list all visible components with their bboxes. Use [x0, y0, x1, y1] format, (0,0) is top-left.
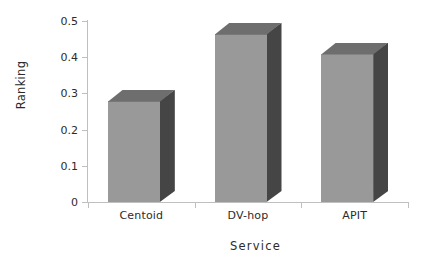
bar-chart: Ranking 0.50.40.30.20.10 CentoidDV-hopAP…	[0, 0, 427, 265]
x-tick-mark	[195, 202, 196, 208]
y-tick-label: 0.2	[18, 123, 78, 136]
y-tick-label: 0	[18, 196, 78, 209]
x-axis-title: Service	[0, 239, 427, 253]
x-tick-mark	[408, 202, 409, 208]
y-tick-mark	[82, 57, 88, 58]
y-tick-label: 0.4	[18, 51, 78, 64]
y-tick-mark	[82, 130, 88, 131]
y-tick-mark	[82, 21, 88, 22]
bar-front-face	[108, 101, 160, 202]
x-axis-line	[87, 202, 409, 203]
y-tick-label: 0.3	[18, 87, 78, 100]
x-tick-mark	[301, 202, 302, 208]
y-tick-mark	[82, 166, 88, 167]
x-category-label-dv-hop: DV-hop	[195, 209, 302, 222]
bar-front-face	[321, 54, 373, 202]
y-axis-line	[87, 20, 88, 203]
y-tick-label: 0.5	[18, 15, 78, 28]
y-tick-label: 0.1	[18, 159, 78, 172]
bar-side-face	[373, 43, 388, 202]
x-category-label-centoid: Centoid	[88, 209, 195, 222]
bar-column	[108, 90, 175, 202]
bar-column	[215, 23, 282, 202]
bar-front-face	[215, 34, 267, 202]
bar-side-face	[160, 90, 175, 202]
bar-column	[321, 43, 388, 202]
y-tick-mark	[82, 93, 88, 94]
x-category-label-apit: APIT	[301, 209, 408, 222]
bar-side-face	[267, 23, 282, 202]
x-tick-mark	[88, 202, 89, 208]
